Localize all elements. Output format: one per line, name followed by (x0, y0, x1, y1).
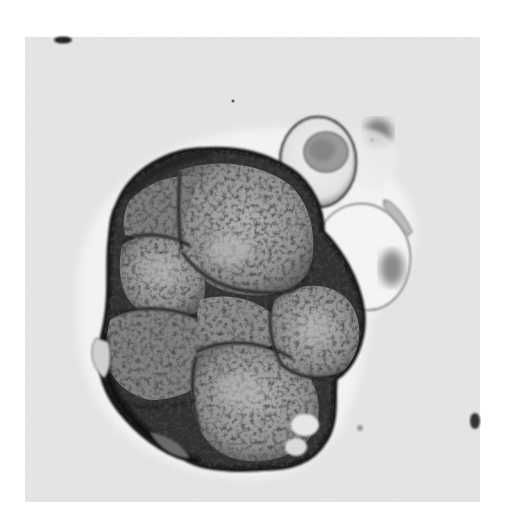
micrograph-figure (0, 0, 506, 529)
debris-speck-top (232, 100, 235, 103)
debris-speck-top-left (54, 37, 72, 44)
debris-speck-right (357, 425, 363, 431)
micrograph-canvas (0, 0, 506, 529)
debris-speck-right-edge (470, 413, 480, 429)
